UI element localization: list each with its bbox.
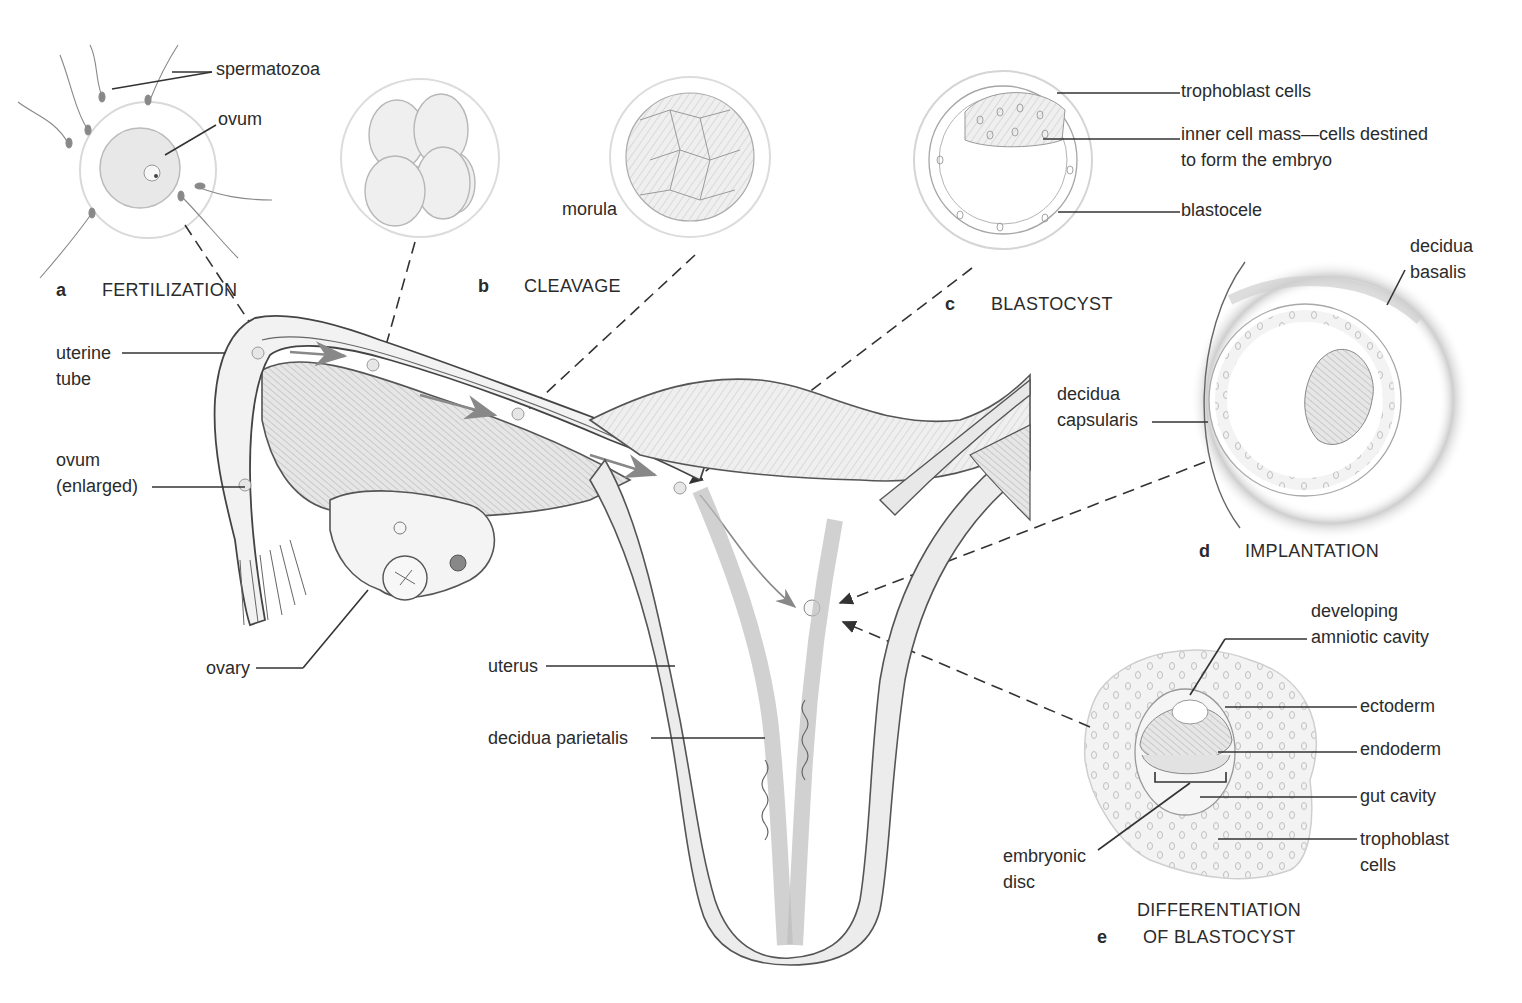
caption-cleavage: bCLEAVAGE bbox=[478, 274, 621, 298]
caption-blastocyst: cBLASTOCYST bbox=[945, 292, 1113, 316]
caption-title-implantation: IMPLANTATION bbox=[1245, 541, 1379, 561]
label-embryonic-disc: embryonic disc bbox=[1003, 843, 1086, 895]
caption-letter-a: a bbox=[56, 278, 102, 302]
label-uterine-tube-line2: tube bbox=[56, 366, 111, 392]
label-ovum-enlarged: ovum (enlarged) bbox=[56, 447, 138, 499]
caption-fertilization: aFERTILIZATION bbox=[56, 278, 237, 302]
label-decidua-basalis-line1: decidua bbox=[1410, 233, 1473, 259]
caption-letter-d: d bbox=[1199, 539, 1245, 563]
caption-implantation: dIMPLANTATION bbox=[1199, 539, 1379, 563]
caption-title-cleavage: CLEAVAGE bbox=[524, 276, 621, 296]
label-ovary: ovary bbox=[206, 655, 250, 681]
label-uterine-tube: uterine tube bbox=[56, 340, 111, 392]
label-decidua-capsularis: decidua capsularis bbox=[1057, 381, 1138, 433]
caption-letter-b: b bbox=[478, 274, 524, 298]
label-spermatozoa: spermatozoa bbox=[216, 56, 320, 82]
label-uterus: uterus bbox=[488, 653, 538, 679]
label-ovum-enlarged-line1: ovum bbox=[56, 447, 138, 473]
label-inner-cell-mass-line2: to form the embryo bbox=[1181, 147, 1428, 173]
caption-letter-c: c bbox=[945, 292, 991, 316]
label-decidua-basalis: decidua basalis bbox=[1410, 233, 1473, 285]
label-gut-cavity: gut cavity bbox=[1360, 783, 1436, 809]
label-uterine-tube-line1: uterine bbox=[56, 340, 111, 366]
label-ectoderm: ectoderm bbox=[1360, 693, 1435, 719]
label-inner-cell-mass: inner cell mass—cells destined to form t… bbox=[1181, 121, 1428, 173]
label-trophoblast-cells-e: trophoblast cells bbox=[1360, 826, 1449, 878]
label-decidua-capsularis-line2: capsularis bbox=[1057, 407, 1138, 433]
label-ovum-enlarged-line2: (enlarged) bbox=[56, 473, 138, 499]
caption-title-fertilization: FERTILIZATION bbox=[102, 280, 237, 300]
label-decidua-basalis-line2: basalis bbox=[1410, 259, 1473, 285]
label-ovum: ovum bbox=[218, 106, 262, 132]
label-inner-cell-mass-line1: inner cell mass—cells destined bbox=[1181, 121, 1428, 147]
label-blastocele: blastocele bbox=[1181, 197, 1262, 223]
label-embryonic-disc-line1: embryonic bbox=[1003, 843, 1086, 869]
label-morula: morula bbox=[562, 196, 617, 222]
label-endoderm: endoderm bbox=[1360, 736, 1441, 762]
label-trophoblast-e-line2: cells bbox=[1360, 852, 1449, 878]
caption-title-blastocyst: BLASTOCYST bbox=[991, 294, 1113, 314]
label-embryonic-disc-line2: disc bbox=[1003, 869, 1086, 895]
label-developing-amniotic-line1: developing bbox=[1311, 598, 1429, 624]
label-trophoblast-cells: trophoblast cells bbox=[1181, 78, 1311, 104]
label-decidua-capsularis-line1: decidua bbox=[1057, 381, 1138, 407]
label-trophoblast-e-line1: trophoblast bbox=[1360, 826, 1449, 852]
differentiation-illustration bbox=[843, 622, 1357, 879]
caption-differentiation: eOF BLASTOCYST bbox=[1097, 925, 1296, 949]
label-developing-amniotic-cavity: developing amniotic cavity bbox=[1311, 598, 1429, 650]
label-developing-amniotic-line2: amniotic cavity bbox=[1311, 624, 1429, 650]
uterine-anatomy-illustration bbox=[122, 316, 1030, 965]
caption-title-differentiation-line2: OF BLASTOCYST bbox=[1143, 927, 1296, 947]
label-decidua-parietalis: decidua parietalis bbox=[488, 725, 628, 751]
caption-differentiation-line1: DIFFERENTIATION bbox=[1137, 898, 1301, 922]
caption-letter-e: e bbox=[1097, 925, 1143, 949]
